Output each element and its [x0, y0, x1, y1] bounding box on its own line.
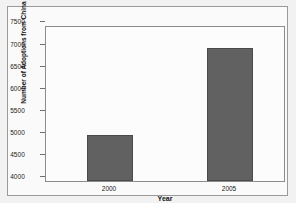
y-tick-label-7500: 7500 [0, 18, 25, 25]
x-tick-label-2005: 2005 [222, 185, 236, 192]
y-tick-label-4000: 4000 [0, 173, 25, 180]
x-axis-title: Year [45, 195, 285, 202]
figure-border: Number of Adoptions from China 4000 4500… [7, 6, 288, 196]
bar-2005[interactable] [207, 48, 253, 181]
plot-frame [45, 26, 285, 182]
plot-area [46, 27, 284, 181]
y-tick-label-6000: 6000 [0, 85, 25, 92]
y-tick-label-5000: 5000 [0, 129, 25, 136]
bar-2000[interactable] [87, 135, 133, 181]
figure-canvas: Number of Adoptions from China 4000 4500… [0, 0, 296, 203]
y-tick-label-5500: 5500 [0, 107, 25, 114]
y-tick-label-7000: 7000 [0, 41, 25, 48]
y-tick-label-4500: 4500 [0, 151, 25, 158]
y-tick-mark-7500 [40, 21, 45, 22]
y-tick-label-6500: 6500 [0, 63, 25, 70]
x-tick-label-2000: 2000 [102, 185, 116, 192]
